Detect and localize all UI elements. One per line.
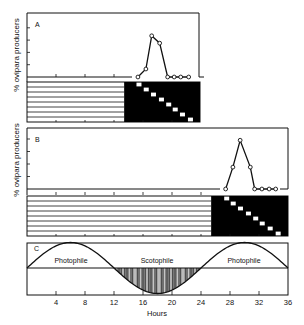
light-break	[136, 83, 141, 87]
panel-a-ylabel: % ovipara producers	[12, 18, 21, 91]
data-point	[150, 34, 154, 38]
dark-period	[124, 82, 200, 122]
data-line	[226, 140, 276, 189]
panel-a: % ovipara producers A	[12, 13, 204, 122]
panel-c-xaxis: 4812162024283236	[54, 291, 292, 307]
light-break	[231, 202, 236, 206]
figure: % ovipara producers A % ovipara producer…	[0, 0, 304, 325]
light-break	[151, 93, 156, 97]
data-point	[274, 187, 278, 191]
light-break	[166, 103, 171, 107]
panel-b-ylabel: % ovipara producers	[12, 123, 21, 196]
light-break	[246, 212, 251, 216]
data-point	[231, 165, 235, 169]
light-break	[268, 227, 273, 231]
panel-b-xticks	[56, 192, 201, 195]
x-tick-label: 12	[110, 298, 118, 307]
data-point	[158, 41, 162, 45]
panel-b-label: B	[35, 136, 40, 143]
data-point	[136, 75, 140, 79]
dark-period	[211, 196, 288, 236]
light-break	[173, 108, 178, 112]
scotophile-shading	[114, 268, 201, 294]
light-break	[260, 222, 265, 226]
x-tick-label: 4	[54, 298, 58, 307]
region-photophile-1: Photophile	[54, 257, 87, 265]
x-tick-label: 28	[226, 298, 234, 307]
light-break	[180, 113, 185, 117]
x-tick-label: 32	[255, 298, 263, 307]
panel-b-series	[224, 138, 278, 191]
panel-a-frame	[27, 13, 204, 82]
light-break	[253, 217, 258, 221]
data-point	[187, 75, 191, 79]
data-point	[172, 75, 176, 79]
data-point	[248, 165, 252, 169]
light-break	[159, 98, 164, 102]
data-point	[224, 187, 228, 191]
x-axis-title: Hours	[147, 309, 167, 318]
panel-c: C Photophile Scotophile Photophile 48121…	[27, 243, 292, 319]
data-point	[166, 75, 170, 79]
panel-b: % ovipara producers B	[12, 123, 288, 236]
region-scotophile: Scotophile	[141, 257, 174, 265]
scotophile-fill	[114, 268, 201, 294]
panel-c-label: C	[34, 245, 39, 252]
data-point	[144, 67, 148, 71]
light-break	[238, 207, 243, 211]
x-tick-label: 20	[168, 298, 176, 307]
panel-a-label: A	[35, 21, 40, 28]
light-break	[224, 197, 229, 201]
panel-a-series	[136, 34, 191, 79]
data-point	[179, 75, 183, 79]
light-break	[144, 88, 149, 92]
light-break	[276, 232, 281, 236]
panel-b-light-schedule	[27, 196, 288, 236]
x-tick-label: 8	[83, 298, 87, 307]
x-tick-label: 36	[284, 298, 292, 307]
x-tick-label: 24	[197, 298, 205, 307]
data-point	[260, 187, 264, 191]
data-point	[267, 187, 271, 191]
light-break	[188, 118, 193, 122]
data-point	[253, 187, 257, 191]
data-point	[238, 138, 242, 142]
region-photophile-2: Photophile	[227, 257, 260, 265]
panel-a-light-schedule	[27, 82, 200, 122]
x-tick-label: 16	[139, 298, 147, 307]
